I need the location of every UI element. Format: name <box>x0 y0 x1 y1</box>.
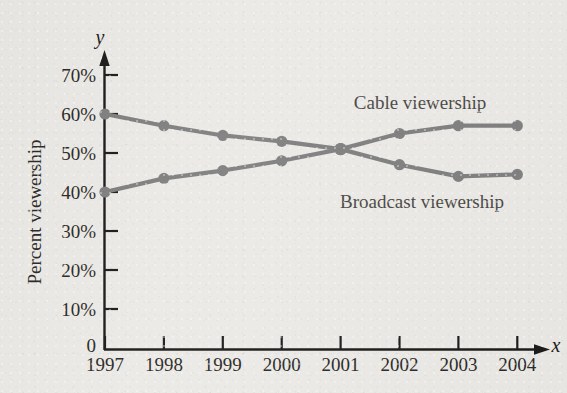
broadcast-point-2000 <box>276 136 287 147</box>
y-tick-label-0: 0 <box>87 335 97 356</box>
x-tick-label-1999: 1999 <box>204 354 242 375</box>
cable-point-2000 <box>276 155 287 166</box>
cable-series-label: Cable viewership <box>354 92 486 113</box>
x-tick-label-2000: 2000 <box>263 354 301 375</box>
cable-point-1999 <box>217 165 228 176</box>
y-tick-label-40: 40% <box>61 182 96 203</box>
y-axis-letter: y <box>94 26 105 49</box>
line-chart-canvas: 70% 60% 50% 40% 30% 20% 10% 0 1997 1998 … <box>0 0 567 393</box>
x-axis-arrowhead <box>534 344 550 354</box>
cable-point-1997 <box>99 186 110 197</box>
broadcast-point-2003 <box>453 171 464 182</box>
y-tick-label-50: 50% <box>61 143 96 164</box>
y-axis-title: Percent viewership <box>24 139 45 284</box>
x-tick-label-2001: 2001 <box>322 354 360 375</box>
cable-markers <box>99 120 522 197</box>
y-tick-label-10: 10% <box>61 299 96 320</box>
broadcast-point-1997 <box>99 108 110 119</box>
x-tick-label-2002: 2002 <box>381 354 419 375</box>
broadcast-point-2002 <box>394 159 405 170</box>
y-tick-label-70: 70% <box>61 65 96 86</box>
cable-point-2002 <box>394 128 405 139</box>
broadcast-point-1999 <box>217 130 228 141</box>
x-tick-label-1998: 1998 <box>145 354 183 375</box>
y-tick-label-60: 60% <box>61 104 96 125</box>
x-tick-label-2004: 2004 <box>498 354 537 375</box>
broadcast-series-label: Broadcast viewership <box>340 191 504 212</box>
x-axis-ticks <box>105 336 517 349</box>
y-axis-tick-labels: 70% 60% 50% 40% 30% 20% 10% 0 <box>61 65 96 356</box>
cable-point-2004 <box>512 120 523 131</box>
broadcast-point-2001 <box>334 143 346 155</box>
y-tick-label-30: 30% <box>61 221 96 242</box>
cable-point-1998 <box>158 173 169 184</box>
series-cable-viewership <box>99 120 522 197</box>
broadcast-point-2004 <box>512 169 523 180</box>
y-tick-label-20: 20% <box>61 260 96 281</box>
chart-figure: 70% 60% 50% 40% 30% 20% 10% 0 1997 1998 … <box>0 0 567 393</box>
broadcast-point-1998 <box>158 120 169 131</box>
x-axis-tick-labels: 1997 1998 1999 2000 2001 2002 2003 2004 <box>86 354 537 375</box>
cable-point-2003 <box>453 120 464 131</box>
y-axis-arrowhead <box>99 50 109 66</box>
x-axis-letter: x <box>551 334 561 356</box>
x-tick-label-1997: 1997 <box>86 354 124 375</box>
series-broadcast-viewership <box>99 108 522 182</box>
x-tick-label-2003: 2003 <box>439 354 477 375</box>
